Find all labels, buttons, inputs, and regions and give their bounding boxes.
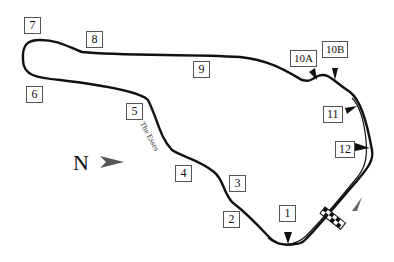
turn-6-label: 6 xyxy=(26,86,43,103)
pit-lane xyxy=(268,98,367,245)
compass-north-label: N xyxy=(73,150,89,176)
direction-arrow-icon xyxy=(352,197,362,211)
turn-2-label: 2 xyxy=(223,211,240,228)
track-diagram xyxy=(0,0,394,262)
turn-8-label: 8 xyxy=(86,31,103,48)
turn-4-label: 4 xyxy=(175,165,192,182)
turn-7-label: 7 xyxy=(24,17,41,34)
turn-12-label: 12 xyxy=(335,141,355,158)
turn-10b-label: 10B xyxy=(322,41,348,58)
turn-3-label: 3 xyxy=(229,175,246,192)
north-arrow-icon xyxy=(100,156,124,168)
turn-9-label: 9 xyxy=(193,61,210,78)
turn-10a-label: 10A xyxy=(290,50,317,67)
turn-12-pointer-icon xyxy=(355,143,370,151)
turn-5-label: 5 xyxy=(126,103,143,120)
turn-11-pointer-icon xyxy=(345,106,357,114)
turn-1-pointer-icon xyxy=(284,232,292,244)
turn-1-label: 1 xyxy=(279,205,296,222)
turn-11-label: 11 xyxy=(323,106,343,123)
